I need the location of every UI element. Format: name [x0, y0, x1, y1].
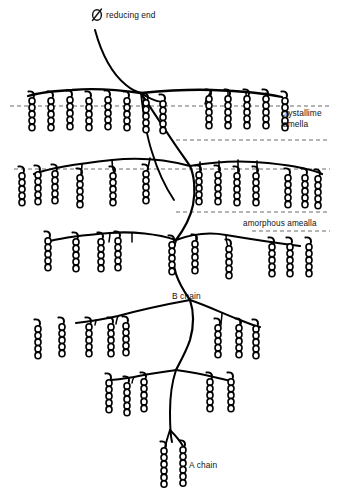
glucose-chain — [160, 441, 167, 487]
glucose-unit — [59, 330, 65, 337]
glucose-unit — [253, 173, 259, 180]
glucose-unit — [73, 259, 79, 266]
glucose-unit — [86, 118, 92, 125]
glucose-unit — [45, 264, 51, 271]
glucose-unit — [206, 116, 212, 123]
glucose-unit — [45, 251, 51, 258]
glucose-unit — [160, 121, 166, 128]
glucose-unit — [86, 324, 92, 331]
glucose-unit — [141, 405, 147, 412]
glucose-unit — [269, 264, 275, 271]
glucose-unit — [234, 193, 240, 200]
glucose-unit — [161, 454, 167, 461]
glucose-unit — [106, 400, 112, 407]
glucose-unit — [285, 175, 291, 182]
glucose-unit — [161, 474, 167, 481]
glucose-unit — [124, 118, 130, 125]
glucose-unit — [263, 116, 269, 123]
amylopectin-cluster-diagram: reducing endcrystallimelamellaamorphous … — [0, 0, 344, 498]
glucose-unit — [105, 117, 111, 124]
glucose-unit — [77, 175, 83, 182]
glucose-unit — [45, 244, 51, 251]
glucose-unit — [287, 244, 293, 251]
glucose-unit — [45, 238, 51, 245]
glucose-unit — [287, 270, 293, 277]
glucose-unit — [302, 188, 308, 195]
glucose-unit — [73, 252, 79, 259]
glucose-unit — [143, 171, 149, 178]
glucose-unit — [110, 179, 116, 186]
glucose-unit — [19, 199, 25, 206]
glucose-unit — [67, 103, 73, 110]
glucose-unit — [282, 98, 288, 105]
glucose-unit — [234, 186, 240, 193]
glucose-unit — [45, 258, 51, 265]
glucose-unit — [141, 392, 147, 399]
glucose-unit — [315, 189, 321, 196]
glucose-unit — [19, 173, 25, 180]
glucose-unit — [29, 98, 35, 105]
glucose-unit — [180, 453, 186, 460]
glucose-unit — [141, 399, 147, 406]
glucose-unit — [110, 186, 116, 193]
glucose-unit — [108, 344, 114, 351]
glucose-unit — [48, 118, 54, 125]
glucose-unit — [105, 123, 111, 130]
glucose-unit — [228, 392, 234, 399]
glucose-unit — [207, 379, 213, 386]
glucose-unit — [192, 241, 198, 248]
glucose-unit — [52, 177, 58, 184]
glucose-unit — [215, 331, 221, 338]
glucose-unit — [302, 201, 308, 208]
glucose-unit — [215, 192, 221, 199]
glucose-unit — [108, 350, 114, 357]
glucose-unit — [86, 337, 92, 344]
glucose-unit — [315, 202, 321, 209]
glucose-unit — [86, 98, 92, 105]
glucose-unit — [124, 98, 130, 105]
glucose-unit — [225, 116, 231, 123]
glucose-unit — [302, 195, 308, 202]
glucose-unit — [269, 244, 275, 251]
glucose-unit — [73, 239, 79, 246]
amorphous-lamella-label: amorphous amealla — [243, 219, 317, 228]
glucose-unit — [215, 351, 221, 358]
glucose-unit — [244, 122, 250, 129]
glucose-unit — [86, 350, 92, 357]
glucose-unit — [115, 264, 121, 271]
glucose-unit — [124, 124, 130, 131]
glucose-unit — [253, 193, 259, 200]
glucose-unit — [263, 102, 269, 109]
glucose-unit — [226, 272, 232, 279]
glucose-unit — [253, 199, 259, 206]
glucose-unit — [269, 270, 275, 277]
glucose-unit — [169, 248, 175, 255]
glucose-unit — [59, 337, 65, 344]
glucose-unit — [236, 338, 242, 345]
glucose-unit — [67, 97, 73, 104]
glucose-unit — [269, 257, 275, 264]
glucose-unit — [143, 120, 149, 127]
glucose-unit — [225, 122, 231, 129]
glucose-unit — [52, 197, 58, 204]
glucose-unit — [143, 184, 149, 191]
glucose-unit — [228, 379, 234, 386]
glucose-unit — [180, 480, 186, 487]
glucose-unit — [86, 111, 92, 118]
glucose-unit — [215, 178, 221, 185]
glucose-unit — [306, 270, 312, 277]
glucose-unit — [306, 250, 312, 257]
glucose-unit — [160, 127, 166, 134]
glucose-unit — [207, 385, 213, 392]
glucose-unit — [123, 336, 129, 343]
glucose-unit — [48, 104, 54, 111]
glucose-unit — [124, 383, 130, 390]
glucose-unit — [124, 104, 130, 111]
glucose-unit — [192, 247, 198, 254]
glucose-unit — [124, 111, 130, 118]
glucose-unit — [123, 343, 129, 350]
glucose-unit — [105, 97, 111, 104]
glucose-unit — [86, 344, 92, 351]
glucose-unit — [226, 266, 232, 273]
glucose-unit — [108, 330, 114, 337]
